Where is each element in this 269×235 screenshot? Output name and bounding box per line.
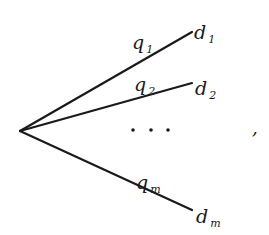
node-label-d1: d1	[194, 21, 215, 46]
edge-1	[20, 32, 192, 131]
edge-label-q2: q2	[134, 73, 155, 98]
edge-label-qm: qm	[136, 171, 161, 196]
node-label-dm: dm	[196, 205, 221, 230]
edge-label-q1: q1	[132, 31, 153, 56]
trailing-comma: ,	[252, 117, 258, 138]
node-label-d2: d2	[195, 77, 216, 102]
ellipsis	[131, 128, 170, 132]
edge-2	[20, 83, 192, 131]
edge-m	[20, 131, 192, 210]
fan-diagram: q1 q2 qm d1 d2 dm ,	[0, 0, 269, 235]
